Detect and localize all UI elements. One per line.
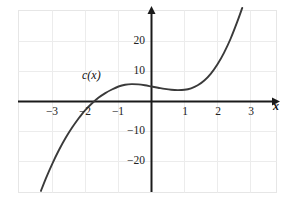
x-tick-label--3: −3: [46, 106, 58, 118]
y-tick-label-20: 20: [134, 35, 146, 47]
x-axis-label: x: [273, 100, 279, 112]
x-tick-label-3: 3: [248, 106, 254, 118]
x-tick-label-1: 1: [182, 106, 188, 118]
y-tick-label--10: −10: [127, 125, 145, 137]
y-tick-label-10: 10: [134, 65, 146, 77]
x-tick-label--2: −2: [79, 106, 91, 118]
x-tick-label--1: −1: [112, 106, 124, 118]
x-tick-label-2: 2: [215, 106, 221, 118]
function-graph-figure: −3 −2 −1 1 2 3 20 10 −10 −20 x c(x): [0, 0, 296, 203]
plot-canvas: [0, 0, 296, 203]
y-tick-label--20: −20: [127, 155, 145, 167]
curve-annotation-label: c(x): [82, 69, 101, 81]
